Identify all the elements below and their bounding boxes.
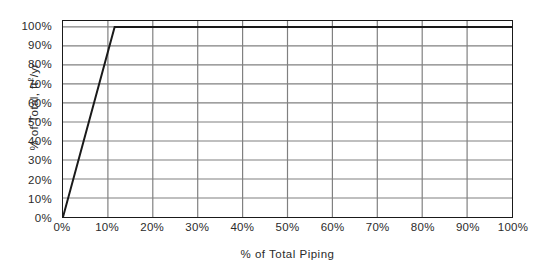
- x-tick-label: 100%: [483, 221, 533, 233]
- y-tick-label: 40%: [0, 135, 52, 147]
- x-axis-title: % of Total Piping: [62, 248, 513, 260]
- y-tick-label: 80%: [0, 58, 52, 70]
- y-tick-label: 70%: [0, 78, 52, 90]
- y-tick-label: 60%: [0, 97, 52, 109]
- plot-svg: [63, 21, 512, 217]
- plot-area: [62, 20, 513, 218]
- y-axis-tick-labels: 0%10%20%30%40%50%60%70%80%90%100%: [0, 20, 56, 218]
- y-tick-label: 50%: [0, 116, 52, 128]
- y-tick-label: 30%: [0, 154, 52, 166]
- y-tick-label: 20%: [0, 174, 52, 186]
- y-tick-label: 90%: [0, 39, 52, 51]
- vertical-gridlines: [108, 21, 467, 217]
- x-axis-tick-labels: 0%10%20%30%40%50%60%70%80%90%100%: [62, 221, 513, 239]
- y-tick-label: 100%: [0, 20, 52, 32]
- y-tick-label: 10%: [0, 193, 52, 205]
